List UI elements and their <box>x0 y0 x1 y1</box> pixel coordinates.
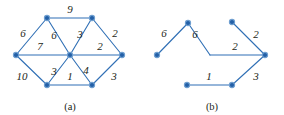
node-vertex <box>185 20 190 25</box>
edge-weight-label: 7 <box>37 41 43 52</box>
edge-weight-label: 9 <box>67 4 73 15</box>
edge-weight-label: 10 <box>17 71 28 82</box>
node-vertex <box>154 52 159 57</box>
node-vertex <box>119 52 124 57</box>
graph-canvas <box>0 0 284 115</box>
edge-weight-label: 6 <box>51 30 57 41</box>
edge-weight-label: 6 <box>192 29 198 40</box>
edge-weight-label: 4 <box>83 65 89 76</box>
node-vertex <box>229 19 234 24</box>
node-vertex <box>44 15 49 20</box>
node-vertex <box>89 15 94 20</box>
node-vertex <box>44 82 49 87</box>
edge-weight-label: 1 <box>206 71 212 82</box>
edge-weight-label: 2 <box>112 28 118 39</box>
edge-weight-label: 3 <box>111 71 117 82</box>
node-vertex <box>262 52 267 57</box>
edge-br-r <box>232 55 265 85</box>
edge-weight-label: 3 <box>77 29 83 40</box>
edge-weight-label: 6 <box>161 28 167 39</box>
edge-weight-label: 6 <box>20 28 26 39</box>
node-vertex <box>184 82 189 87</box>
node-vertex <box>229 82 234 87</box>
edge-weight-label: 2 <box>253 29 259 40</box>
node-vertex <box>89 82 94 87</box>
edge-br-r <box>92 55 122 85</box>
edge-weight-label: 2 <box>232 41 238 52</box>
panel-caption-a: (a) <box>64 102 76 113</box>
node-vertex <box>67 52 72 57</box>
edge-weight-label: 2 <box>97 41 103 52</box>
figure-container: 9 6 6 3 2 7 2 10 3 1 4 3 6 6 2 2 1 3 (a)… <box>0 0 284 115</box>
edge-weight-label: 3 <box>51 66 57 77</box>
node-vertex <box>13 52 18 57</box>
edge-weight-label: 3 <box>253 71 259 82</box>
panel-caption-b: (b) <box>206 102 218 113</box>
edge-weight-label: 1 <box>67 71 73 82</box>
